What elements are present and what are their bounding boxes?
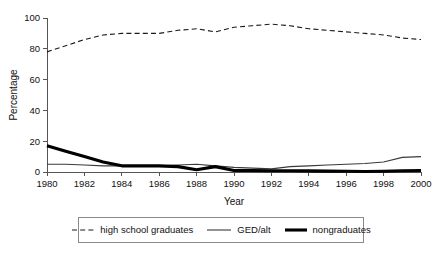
line-chart: 020406080100 198019821984198619881990199… bbox=[0, 0, 443, 215]
y-tick-label: 60 bbox=[29, 74, 40, 85]
legend-swatch-dashed bbox=[71, 226, 95, 234]
x-tick-label: 2000 bbox=[410, 178, 431, 189]
legend-item[interactable]: GED/alt bbox=[206, 225, 270, 235]
y-tick-label: 100 bbox=[24, 12, 40, 23]
legend-swatch-thin-solid bbox=[206, 226, 232, 234]
x-tick-label: 1984 bbox=[111, 178, 132, 189]
y-tick-label: 20 bbox=[29, 136, 40, 147]
x-tick-label: 1988 bbox=[186, 178, 207, 189]
legend-label: high school graduates bbox=[100, 225, 193, 235]
legend-item[interactable]: nongraduates bbox=[284, 225, 371, 235]
chart-legend: high school graduatesGED/altnongraduates bbox=[78, 217, 364, 243]
legend-label: GED/alt bbox=[237, 225, 270, 235]
legend-label: nongraduates bbox=[313, 225, 371, 235]
x-tick-label: 1996 bbox=[336, 178, 357, 189]
series-line bbox=[47, 24, 421, 52]
x-axis: 1980198219841986198819901992199419961998… bbox=[36, 172, 431, 189]
x-tick-label: 1992 bbox=[261, 178, 282, 189]
y-tick-label: 80 bbox=[29, 43, 40, 54]
chart-figure: 020406080100 198019821984198619881990199… bbox=[0, 0, 443, 256]
legend-item[interactable]: high school graduates bbox=[71, 225, 193, 235]
x-tick-label: 1998 bbox=[373, 178, 394, 189]
x-tick-label: 1990 bbox=[223, 178, 244, 189]
y-tick-label: 40 bbox=[29, 105, 40, 116]
series-group bbox=[47, 24, 421, 171]
y-tick-label: 0 bbox=[35, 166, 40, 177]
y-axis: 020406080100 bbox=[24, 12, 47, 177]
x-tick-label: 1986 bbox=[149, 178, 170, 189]
y-axis-title: Percentage bbox=[8, 69, 19, 121]
x-tick-label: 1980 bbox=[36, 178, 57, 189]
x-tick-label: 1982 bbox=[74, 178, 95, 189]
x-axis-title: Year bbox=[224, 196, 245, 207]
legend-swatch-thick-solid bbox=[284, 226, 308, 234]
x-tick-label: 1994 bbox=[298, 178, 319, 189]
